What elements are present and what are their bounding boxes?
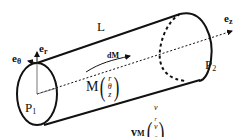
- p1-label: P1: [25, 101, 36, 114]
- e-r-label: er: [39, 43, 47, 54]
- dM-label: dM: [107, 52, 119, 60]
- velocity-vM-label: vM ( vr vθ vz ): [131, 104, 167, 137]
- p2-label: P2: [205, 58, 216, 71]
- length-label: L: [97, 20, 105, 33]
- e-z-label: ez: [224, 13, 232, 24]
- point-M-label: M ( r θ z ): [86, 73, 121, 101]
- e-theta-label: eθ: [12, 53, 21, 64]
- radius-line: [37, 88, 57, 94]
- bottom-edge-line: [44, 80, 200, 125]
- axis-line: [37, 31, 232, 94]
- right-end-hidden-arc: [160, 14, 185, 81]
